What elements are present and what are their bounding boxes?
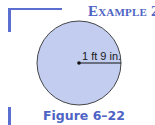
decorative-caption-bar: [8, 107, 11, 125]
circle-diagram: [0, 0, 155, 125]
center-point: [77, 61, 81, 65]
radius-label: 1 ft 9 in.: [82, 50, 121, 62]
figure-caption: Figure 6–22: [43, 108, 125, 123]
